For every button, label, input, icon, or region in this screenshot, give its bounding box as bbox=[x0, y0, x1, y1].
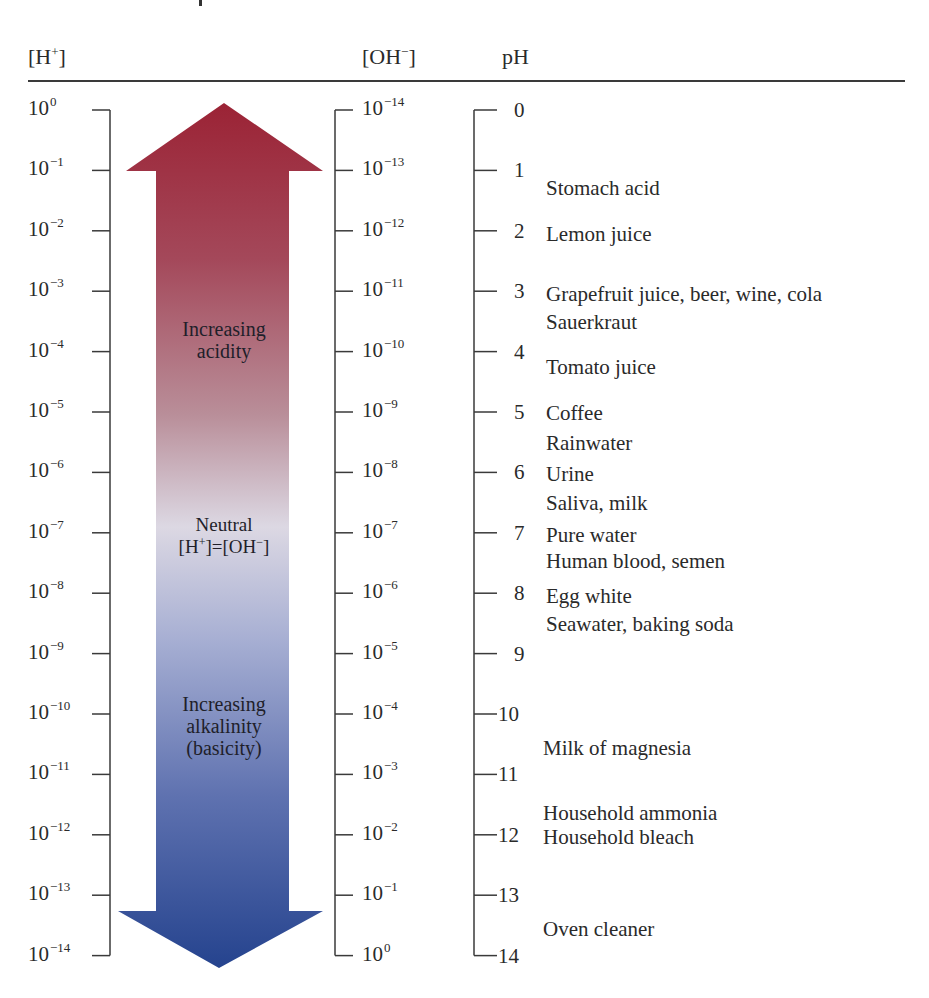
substance-label: Grapefruit juice, beer, wine, cola bbox=[546, 282, 822, 306]
oh-tick-label: 10−13 bbox=[362, 156, 404, 183]
substance-label: Oven cleaner bbox=[543, 917, 654, 941]
oh-tick-label: 10−9 bbox=[362, 398, 398, 425]
substance-label: Urine bbox=[546, 462, 594, 486]
oh-tick-label: 10−10 bbox=[362, 338, 404, 365]
substance-label: Egg white bbox=[546, 584, 632, 608]
ph-scale-graphic bbox=[0, 0, 929, 998]
ph-tick-label: 13 bbox=[498, 883, 519, 907]
oh-tick-label: 10−11 bbox=[362, 277, 404, 304]
oh-tick-label: 10−6 bbox=[362, 579, 398, 606]
oh-tick-label: 10−8 bbox=[362, 458, 398, 485]
substance-label: Human blood, semen bbox=[546, 549, 725, 573]
ph-tick-label: 8 bbox=[514, 581, 525, 605]
h-tick-label: 10−11 bbox=[28, 760, 70, 787]
substance-label: Milk of magnesia bbox=[543, 736, 691, 760]
h-tick-label: 10−5 bbox=[28, 398, 64, 425]
alkalinity-label: Increasingalkalinity(basicity) bbox=[150, 693, 298, 759]
substance-label: Coffee bbox=[546, 401, 603, 425]
substance-label: Lemon juice bbox=[546, 222, 652, 246]
h-tick-label: 10−9 bbox=[28, 640, 64, 667]
oh-tick-label: 10−2 bbox=[362, 821, 398, 848]
ph-tick-label: 7 bbox=[514, 521, 525, 545]
h-tick-label: 10−12 bbox=[28, 821, 70, 848]
ph-tick-label: 3 bbox=[514, 279, 525, 303]
ph-tick-label: 11 bbox=[498, 762, 518, 786]
oh-tick-label: 100 bbox=[362, 942, 391, 969]
oh-tick-label: 10−5 bbox=[362, 640, 398, 667]
h-tick-label: 10−14 bbox=[28, 942, 70, 969]
h-tick-label: 10−13 bbox=[28, 881, 70, 908]
oh-tick-label: 10−12 bbox=[362, 217, 404, 244]
neutral-label: Neutral [H+]=[OH−] bbox=[150, 514, 298, 560]
ph-tick-label: 10 bbox=[498, 702, 519, 726]
h-tick-label: 10−4 bbox=[28, 338, 64, 365]
ph-tick-label: 5 bbox=[514, 400, 525, 424]
substance-label: Sauerkraut bbox=[546, 310, 637, 334]
ph-tick-label: 6 bbox=[514, 460, 525, 484]
oh-tick-label: 10−4 bbox=[362, 700, 398, 727]
h-tick-label: 10−2 bbox=[28, 217, 64, 244]
oh-tick-label: 10−1 bbox=[362, 881, 398, 908]
ph-tick-label: 12 bbox=[498, 823, 519, 847]
substance-label: Household bleach bbox=[543, 825, 694, 849]
ph-tick-label: 0 bbox=[514, 98, 525, 122]
substance-label: Seawater, baking soda bbox=[546, 612, 734, 636]
h-tick-label: 100 bbox=[28, 96, 57, 123]
h-tick-label: 10−1 bbox=[28, 156, 64, 183]
ph-tick-label: 4 bbox=[514, 340, 525, 364]
substance-label: Stomach acid bbox=[546, 176, 660, 200]
acidity-label: Increasingacidity bbox=[150, 318, 298, 362]
oh-tick-label: 10−14 bbox=[362, 96, 404, 123]
substance-label: Saliva, milk bbox=[546, 491, 648, 515]
ph-tick-label: 2 bbox=[514, 219, 525, 243]
h-tick-label: 10−7 bbox=[28, 519, 64, 546]
substance-label: Pure water bbox=[546, 523, 636, 547]
substance-label: Household ammonia bbox=[543, 801, 717, 825]
ph-tick-label: 1 bbox=[514, 158, 525, 182]
h-tick-label: 10−8 bbox=[28, 579, 64, 606]
h-tick-label: 10−10 bbox=[28, 700, 70, 727]
oh-tick-label: 10−3 bbox=[362, 760, 398, 787]
ph-tick-label: 9 bbox=[514, 642, 525, 666]
h-tick-label: 10−3 bbox=[28, 277, 64, 304]
substance-label: Tomato juice bbox=[546, 355, 656, 379]
h-tick-label: 10−6 bbox=[28, 458, 64, 485]
oh-tick-label: 10−7 bbox=[362, 519, 398, 546]
ph-tick-label: 14 bbox=[498, 944, 519, 968]
substance-label: Rainwater bbox=[546, 431, 632, 455]
